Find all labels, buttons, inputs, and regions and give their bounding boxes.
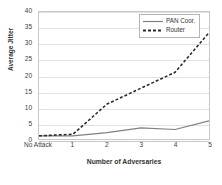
legend-line-swatch-icon: [143, 27, 163, 34]
y-tick-label-25: 25: [25, 56, 32, 63]
chart-legend: PAN Coor.Router: [139, 14, 200, 38]
legend-line-swatch-icon: [143, 18, 163, 25]
x-tick-label-4: 4: [174, 142, 178, 149]
x-tick-label-5: 5: [208, 142, 212, 149]
y-tick-label-35: 35: [25, 24, 32, 31]
y-axis-tick-labels: 0510152025303540: [0, 11, 36, 140]
x-tick-label-1: 1: [71, 142, 75, 149]
y-tick-label-30: 30: [25, 40, 32, 47]
y-tick-label-40: 40: [25, 8, 32, 15]
legend-entry-router[interactable]: Router: [143, 26, 195, 35]
jitter-line-chart: 0510152025303540 Average Jitter No Attac…: [0, 0, 222, 185]
legend-label: PAN Coor.: [166, 18, 195, 24]
x-tick-label-3: 3: [139, 142, 143, 149]
y-tick-label-20: 20: [25, 72, 32, 79]
x-tick-label-2: 2: [105, 142, 109, 149]
legend-entry-pan-coor[interactable]: PAN Coor.: [143, 17, 195, 26]
x-tick-label-no-attack: No Attack: [24, 142, 52, 149]
legend-label: Router: [166, 27, 185, 33]
series-line-pan-coor: [39, 121, 209, 136]
y-tick-label-10: 10: [25, 105, 32, 112]
x-axis-tick-labels: No Attack12345: [38, 142, 210, 154]
y-tick-label-15: 15: [25, 88, 32, 95]
y-axis-title: Average Jitter: [7, 12, 14, 88]
x-axis-title: Number of Adversaries: [38, 158, 210, 165]
series-line-router: [39, 33, 209, 136]
y-tick-label-5: 5: [28, 121, 32, 128]
